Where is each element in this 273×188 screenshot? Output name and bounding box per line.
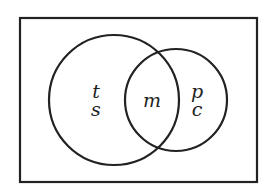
right-set-circle <box>125 49 227 151</box>
left-label-s: s <box>91 98 101 120</box>
intersection-label-m: m <box>143 89 161 111</box>
venn-diagram: t s m p c <box>0 0 273 188</box>
right-label-c: c <box>192 98 203 120</box>
universe-rectangle <box>20 18 257 182</box>
